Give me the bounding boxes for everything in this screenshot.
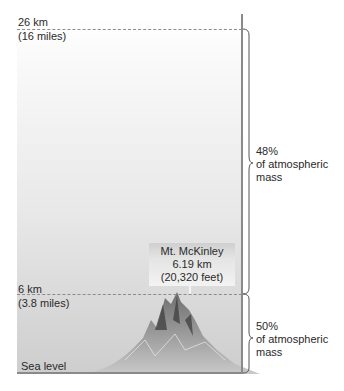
sea-level-label: Sea level [21, 361, 66, 372]
lower-layer-brace [242, 293, 254, 375]
lower-layer-mass-label: 50% of atmospheric mass [256, 320, 328, 359]
upper-layer-brace [242, 28, 254, 296]
top-altitude-miles-label: (16 miles) [18, 31, 66, 42]
mid-altitude-dashed-line [17, 294, 242, 295]
upper-layer-desc: of atmospheric [256, 158, 328, 171]
peak-height-km: 6.19 km [149, 258, 235, 271]
sea-level-line [17, 372, 243, 374]
upper-layer-mass-label: 48% of atmospheric mass [256, 145, 328, 184]
peak-height-feet: (20,320 feet) [149, 271, 235, 284]
mt-mckinley-callout: Mt. McKinley 6.19 km (20,320 feet) [149, 243, 235, 286]
lower-layer-percent: 50% [256, 320, 328, 333]
lower-layer-desc: of atmospheric [256, 333, 328, 346]
top-altitude-km-label: 26 km [18, 17, 48, 28]
peak-name: Mt. McKinley [149, 245, 235, 258]
mid-altitude-km-label: 6 km [18, 284, 42, 295]
upper-layer-desc-2: mass [256, 171, 328, 184]
mid-altitude-miles-label: (3.8 miles) [18, 298, 69, 309]
upper-layer-percent: 48% [256, 145, 328, 158]
lower-layer-desc-2: mass [256, 346, 328, 359]
mountain-illustration [85, 290, 265, 374]
